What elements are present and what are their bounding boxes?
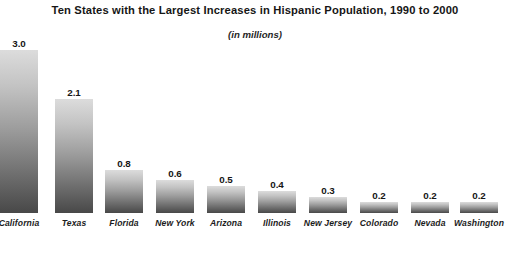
bar-rect[interactable] <box>0 50 38 213</box>
bar-value-label: 0.6 <box>150 168 200 179</box>
bar-group: 2.1 <box>55 44 93 213</box>
x-axis-tick-labels: California Texas Florida New York Arizon… <box>0 218 510 238</box>
bar-rect[interactable] <box>309 197 347 213</box>
bar-group: 0.4 <box>258 44 296 213</box>
bar-value-label: 0.2 <box>354 190 404 201</box>
bar-rect[interactable] <box>360 202 398 213</box>
bar-rect[interactable] <box>105 170 143 213</box>
bar-rect[interactable] <box>207 186 245 213</box>
bar-rect[interactable] <box>460 202 498 213</box>
bar-value-label: 0.3 <box>303 185 353 196</box>
axis-label-washington: Washington <box>447 218 510 228</box>
bar-value-label: 3.0 <box>0 38 44 49</box>
bar-rect[interactable] <box>156 180 194 213</box>
bar-rect[interactable] <box>55 99 93 213</box>
bar-value-label: 0.4 <box>252 179 302 190</box>
bar-group: 3.0 <box>0 44 38 213</box>
bar-rect[interactable] <box>411 202 449 213</box>
bar-group: 0.2 <box>411 44 449 213</box>
bar-value-label: 0.2 <box>405 190 455 201</box>
bar-group: 0.3 <box>309 44 347 213</box>
bar-group: 0.2 <box>460 44 498 213</box>
bar-group: 0.6 <box>156 44 194 213</box>
bar-group: 0.2 <box>360 44 398 213</box>
chart-subtitle: (in millions) <box>0 29 510 40</box>
bar-rect[interactable] <box>258 191 296 213</box>
plot-area: 3.0 2.1 0.8 0.6 0.5 0.4 0.3 0.2 <box>0 44 510 213</box>
bar-value-label: 0.8 <box>99 158 149 169</box>
bar-group: 0.8 <box>105 44 143 213</box>
bar-value-label: 0.2 <box>454 190 504 201</box>
chart-title: Ten States with the Largest Increases in… <box>0 4 510 16</box>
bar-group: 0.5 <box>207 44 245 213</box>
bar-value-label: 0.5 <box>201 174 251 185</box>
bar-value-label: 2.1 <box>49 87 99 98</box>
bar-chart-figure: Ten States with the Largest Increases in… <box>0 0 510 253</box>
